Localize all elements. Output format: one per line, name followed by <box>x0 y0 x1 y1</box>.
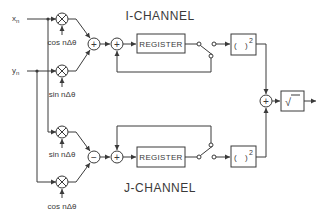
j-combiner-difference: − <box>88 151 100 163</box>
ref-label-sin-1: sin nΔθ <box>49 90 76 99</box>
svg-text:): ) <box>245 41 248 50</box>
svg-text:+: + <box>263 96 269 107</box>
j-square-block: ( ) 2 <box>231 146 256 167</box>
i-combiner-sum: + <box>88 38 100 50</box>
final-sum-adder: + <box>260 95 272 107</box>
svg-text:2: 2 <box>249 149 253 156</box>
svg-text:+: + <box>91 39 97 50</box>
i-square-block: ( ) 2 <box>231 34 256 55</box>
svg-text:REGISTER: REGISTER <box>139 153 182 162</box>
svg-text:(: ( <box>234 41 237 50</box>
ref-label-sin-2: sin nΔθ <box>49 150 76 159</box>
svg-text:−: − <box>91 152 97 163</box>
ref-label-cos-2: cos nΔθ <box>48 202 77 211</box>
svg-text:REGISTER: REGISTER <box>139 40 182 49</box>
svg-text:+: + <box>114 152 120 163</box>
multiplier-cos-i: cos nΔθ <box>48 13 77 47</box>
multiplier-sin-i: sin nΔθ <box>49 65 76 99</box>
square-root-block: √ <box>281 91 304 111</box>
svg-text:): ) <box>245 153 248 162</box>
multiplier-sin-j: sin nΔθ <box>49 126 76 159</box>
multiplier-cos-j: cos nΔθ <box>48 176 77 211</box>
ref-label-cos-1: cos nΔθ <box>48 38 77 47</box>
iq-magnitude-block-diagram: I-CHANNEL J-CHANNEL xn yn cos nΔθ sin nΔ… <box>0 0 327 221</box>
i-channel-title: I-CHANNEL <box>125 9 194 23</box>
svg-text:+: + <box>114 39 120 50</box>
i-accumulator-adder: + <box>111 38 123 50</box>
j-register-block: REGISTER <box>137 147 185 167</box>
i-register-block: REGISTER <box>137 34 185 53</box>
svg-text:yn: yn <box>12 66 19 76</box>
input-y-label: yn <box>12 66 19 76</box>
input-x-label: xn <box>12 14 19 24</box>
sqrt-icon: √ <box>285 96 292 108</box>
j-channel-title: J-CHANNEL <box>124 181 196 195</box>
svg-text:xn: xn <box>12 14 19 24</box>
j-accumulator-adder: + <box>111 151 123 163</box>
svg-text:(: ( <box>234 153 237 162</box>
svg-text:2: 2 <box>249 37 253 44</box>
